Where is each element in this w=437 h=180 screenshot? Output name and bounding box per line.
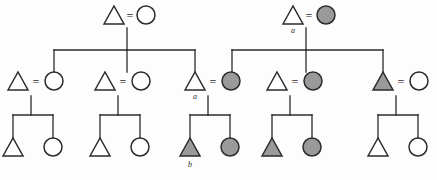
couple-g2-c3: a = (185, 72, 240, 115)
female-symbol-g1-c2[interactable] (317, 6, 335, 24)
male-symbol-g2-c5[interactable] (373, 72, 393, 90)
couple-g2-c4: = (267, 72, 322, 115)
child-symbol-g3-s3-1[interactable] (180, 138, 200, 156)
individual-label-b-g3-s3: b (188, 160, 192, 169)
couple-g2-c1: = (8, 72, 63, 115)
child-symbol-g3-s4-1[interactable] (262, 138, 282, 156)
couple-g2-c5: = (373, 72, 428, 115)
child-symbol-g3-s1-1[interactable] (3, 138, 23, 156)
sibship-bar-right (232, 50, 383, 72)
couple-g2-c2: = (95, 72, 150, 115)
child-symbol-g3-s2-1[interactable] (90, 138, 110, 156)
child-symbol-g3-s5-1[interactable] (368, 138, 388, 156)
child-symbol-g3-s3-2[interactable] (221, 138, 239, 156)
male-symbol-g2-c3[interactable] (185, 72, 205, 90)
male-symbol-g1-c1[interactable] (104, 6, 124, 24)
male-symbol-g2-c2[interactable] (95, 72, 115, 90)
sibship-g3-s5 (368, 115, 427, 156)
pedigree-figure: = a = = (0, 0, 437, 180)
child-symbol-g3-s4-2[interactable] (303, 138, 321, 156)
male-symbol-g2-c4[interactable] (267, 72, 287, 90)
child-symbol-g3-s2-2[interactable] (131, 138, 149, 156)
sibship-g3-s2 (90, 115, 149, 156)
female-symbol-g2-c5[interactable] (410, 72, 428, 90)
child-symbol-g3-s5-2[interactable] (409, 138, 427, 156)
mating-symbol-g2-c3: = (210, 75, 217, 89)
female-symbol-g2-c3[interactable] (222, 72, 240, 90)
female-symbol-g1-c1[interactable] (137, 6, 155, 24)
female-symbol-g2-c2[interactable] (132, 72, 150, 90)
mating-symbol-g1-c2: = (306, 9, 313, 23)
sibship-bar-left (54, 50, 195, 72)
female-symbol-g2-c1[interactable] (45, 72, 63, 90)
individual-label-a-g1-c2: a (291, 26, 295, 35)
male-symbol-g2-c1[interactable] (8, 72, 28, 90)
individual-label-a-g2-c3: a (193, 92, 197, 101)
sibship-g3-s1 (3, 115, 62, 156)
child-symbol-g3-s1-2[interactable] (44, 138, 62, 156)
sibship-g3-s4 (262, 115, 321, 156)
mating-symbol-g2-c2: = (120, 75, 127, 89)
mating-symbol-g1-c1: = (127, 9, 134, 23)
couple-g1-c2: a = (283, 6, 335, 50)
male-symbol-g1-c2[interactable] (283, 6, 303, 24)
sibship-g3-s3: b (180, 115, 239, 169)
couple-g1-c1: = (104, 6, 155, 50)
mating-symbol-g2-c4: = (292, 75, 299, 89)
female-symbol-g2-c4[interactable] (304, 72, 322, 90)
mating-symbol-g2-c1: = (33, 75, 40, 89)
pedigree-canvas: = a = = (0, 0, 437, 180)
mating-symbol-g2-c5: = (398, 75, 405, 89)
